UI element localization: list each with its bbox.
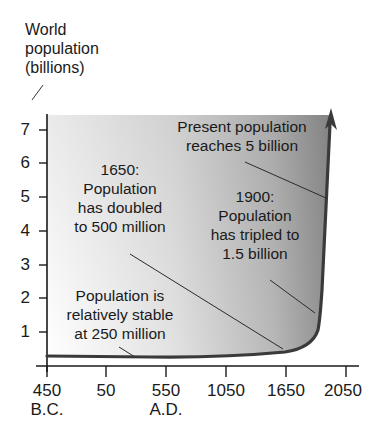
annotation-line: 1.5 billion [200, 244, 310, 263]
y-tick-label: 2 [12, 289, 30, 306]
y-tick-label: 5 [12, 188, 30, 205]
x-tick-label: 50 [76, 381, 136, 400]
annotation-present: Present population reaches 5 billion [162, 117, 322, 155]
x-ticks [47, 366, 346, 377]
annotation-line: at 250 million [55, 324, 185, 343]
annotation-stable: Population is relatively stable at 250 m… [55, 286, 185, 343]
y-ticks [39, 130, 47, 332]
x-tick-label: 1650 [256, 381, 316, 400]
annotation-line: Present population [162, 117, 322, 136]
ylabel-line: population [25, 39, 99, 58]
x-tick-era: B.C. [17, 400, 77, 419]
y-tick-label: 6 [12, 154, 30, 171]
ylabel-line: World [25, 20, 99, 39]
annotation-line: Population [200, 206, 310, 225]
y-tick-label: 7 [12, 121, 30, 138]
y-tick-label: 4 [12, 222, 30, 239]
annotation-line: Population [65, 179, 175, 198]
annotation-1900: 1900: Population has tripled to 1.5 bill… [200, 187, 310, 263]
x-tick-era: A.D. [136, 400, 196, 419]
ylabel-pointer [32, 85, 43, 100]
y-tick-label: 1 [12, 323, 30, 340]
y-axis-label: World population (billions) [25, 20, 99, 77]
x-tick-value: 550 [136, 381, 196, 400]
annotation-line: 1900: [200, 187, 310, 206]
x-tick-label: 450 B.C. [17, 381, 77, 419]
annotation-line: Population is [55, 286, 185, 305]
x-tick-label: 550 A.D. [136, 381, 196, 419]
x-tick-value: 450 [17, 381, 77, 400]
annotation-line: to 500 million [65, 217, 175, 236]
annotation-line: reaches 5 billion [162, 136, 322, 155]
annotation-line: 1650: [65, 160, 175, 179]
annotation-line: relatively stable [55, 305, 185, 324]
annotation-1650: 1650: Population has doubled to 500 mill… [65, 160, 175, 236]
annotation-line: has tripled to [200, 225, 310, 244]
annotation-line: has doubled [65, 198, 175, 217]
y-tick-label: 3 [12, 256, 30, 273]
x-tick-label: 1050 [196, 381, 256, 400]
x-tick-label: 2050 [313, 381, 373, 400]
ylabel-line: (billions) [25, 58, 99, 77]
